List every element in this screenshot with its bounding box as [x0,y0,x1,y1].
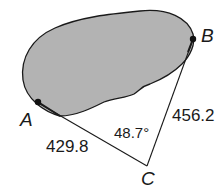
diagram-graphic [0,0,221,187]
point-a-label: A [20,110,33,129]
irregular-region [23,10,194,116]
side-ac-length: 429.8 [46,138,89,155]
point-c-label: C [141,169,155,187]
point-b-label: B [201,26,214,45]
point-a-dot [35,99,41,105]
side-bc-length: 456.2 [172,107,215,124]
point-b-dot [190,36,196,42]
triangulation-diagram: A B C 429.8 456.2 48.7° [0,0,221,187]
angle-c-value: 48.7° [114,125,149,140]
